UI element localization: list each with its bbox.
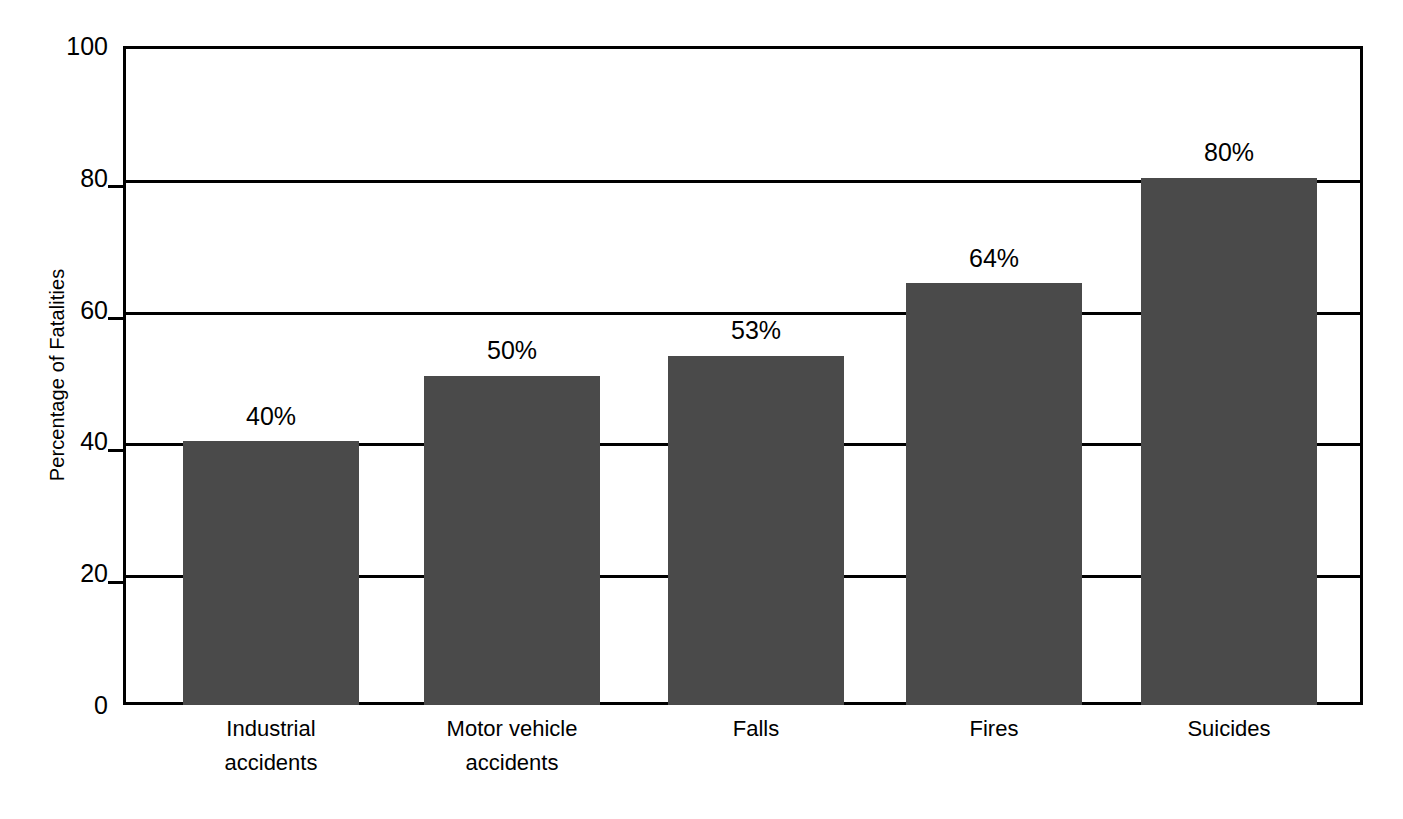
bar-rect[interactable] <box>1141 178 1317 705</box>
y-tick-label-100: 100 <box>46 34 108 59</box>
bar-rect[interactable] <box>424 376 600 706</box>
bar-group-industrial-accidents[interactable]: 40% <box>183 46 359 705</box>
x-cat-label-falls: Falls <box>636 712 876 746</box>
x-cat-line-1: Suicides <box>1109 712 1349 746</box>
bar-chart: Percentage of Fatalities 100 80 60 40 20… <box>0 0 1403 819</box>
x-cat-label-motor-vehicle-accidents: Motor vehicle accidents <box>392 712 632 780</box>
x-cat-line-2: accidents <box>151 746 391 780</box>
bar-group-motor-vehicle-accidents[interactable]: 50% <box>424 46 600 705</box>
bar-value-label: 40% <box>246 404 296 429</box>
y-tick-label-60: 60 <box>46 298 108 323</box>
bar-group-falls[interactable]: 53% <box>668 46 844 705</box>
bar-value-label: 80% <box>1204 140 1254 165</box>
bar-value-label: 53% <box>731 318 781 343</box>
bars: 40% 50% 53% 64% 80% <box>123 46 1363 705</box>
x-cat-label-fires: Fires <box>874 712 1114 746</box>
bar-value-label: 50% <box>487 338 537 363</box>
x-cat-line-1: Falls <box>636 712 876 746</box>
x-axis-category-labels: Industrial accidents Motor vehicle accid… <box>123 712 1363 812</box>
x-cat-line-1: Industrial <box>151 712 391 746</box>
bar-group-suicides[interactable]: 80% <box>1141 46 1317 705</box>
x-cat-label-suicides: Suicides <box>1109 712 1349 746</box>
bar-value-label: 64% <box>969 246 1019 271</box>
y-axis-tick-labels: 100 80 60 40 20 0 <box>38 0 108 819</box>
y-tick-label-20: 20 <box>46 561 108 586</box>
bar-rect[interactable] <box>183 441 359 705</box>
x-cat-line-1: Motor vehicle <box>392 712 632 746</box>
bar-group-fires[interactable]: 64% <box>906 46 1082 705</box>
bar-rect[interactable] <box>906 283 1082 705</box>
x-cat-line-1: Fires <box>874 712 1114 746</box>
x-cat-line-2: accidents <box>392 746 632 780</box>
x-cat-label-industrial-accidents: Industrial accidents <box>151 712 391 780</box>
y-tick-label-0: 0 <box>46 693 108 718</box>
y-tick-label-80: 80 <box>46 166 108 191</box>
y-tick-label-40: 40 <box>46 429 108 454</box>
bar-rect[interactable] <box>668 356 844 705</box>
